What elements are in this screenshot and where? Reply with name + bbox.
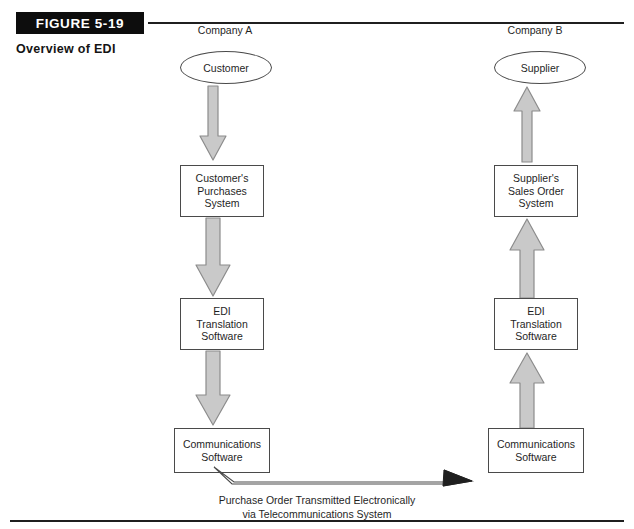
transmission-link-caption: Purchase Order Transmitted Electronicall… xyxy=(177,494,457,521)
line-3: System xyxy=(508,197,564,210)
line-3: System xyxy=(196,197,249,210)
column-heading-company-b: Company B xyxy=(475,24,595,36)
node-customer: Customer xyxy=(180,51,272,84)
line-2: Purchases xyxy=(196,185,249,198)
node-customers-purchases-system-label: Customer's Purchases System xyxy=(196,172,249,210)
transmission-caption-line-2: via Telecommunications System xyxy=(177,508,457,522)
line-1: Communications xyxy=(183,438,261,451)
node-customer-label: Customer xyxy=(203,62,249,74)
node-suppliers-sales-order-system: Supplier's Sales Order System xyxy=(494,165,578,217)
node-communications-software-left-label: Communications Software xyxy=(183,438,261,464)
line-2: Translation xyxy=(196,318,248,331)
line-1: Customer's xyxy=(196,172,249,185)
line-1: Supplier's xyxy=(508,172,564,185)
line-2: Software xyxy=(497,451,575,464)
node-suppliers-sales-order-system-label: Supplier's Sales Order System xyxy=(508,172,564,210)
arrow-edi-to-sales-order xyxy=(506,218,548,298)
line-1: Communications xyxy=(497,438,575,451)
arrow-edi-to-communications-left xyxy=(192,351,234,427)
arrow-customer-to-purchases xyxy=(197,86,229,162)
node-edi-translation-software-right-label: EDI Translation Software xyxy=(510,305,562,343)
line-1: EDI xyxy=(510,305,562,318)
arrow-sales-order-to-supplier xyxy=(511,86,543,162)
node-customers-purchases-system: Customer's Purchases System xyxy=(180,165,264,217)
node-communications-software-right: Communications Software xyxy=(488,428,584,473)
node-edi-translation-software-left-label: EDI Translation Software xyxy=(196,305,248,343)
node-communications-software-right-label: Communications Software xyxy=(497,438,575,464)
figure-number-label: FIGURE 5-19 xyxy=(36,16,124,31)
figure-number-banner: FIGURE 5-19 xyxy=(16,12,144,34)
node-edi-translation-software-right: EDI Translation Software xyxy=(494,298,578,350)
node-supplier: Supplier xyxy=(494,51,586,84)
line-2: Translation xyxy=(510,318,562,331)
arrow-communications-to-edi-right xyxy=(506,352,548,428)
transmission-caption-line-1: Purchase Order Transmitted Electronicall… xyxy=(177,494,457,508)
line-1: EDI xyxy=(196,305,248,318)
line-3: Software xyxy=(510,330,562,343)
line-2: Software xyxy=(183,451,261,464)
node-supplier-label: Supplier xyxy=(521,62,560,74)
line-3: Software xyxy=(196,330,248,343)
figure-page: FIGURE 5-19 Overview of EDI Company A Co… xyxy=(0,0,634,529)
figure-title: Overview of EDI xyxy=(16,42,116,56)
column-heading-company-a: Company A xyxy=(165,24,285,36)
line-2: Sales Order xyxy=(508,185,564,198)
node-edi-translation-software-left: EDI Translation Software xyxy=(180,298,264,350)
arrow-purchases-to-edi xyxy=(192,218,234,298)
